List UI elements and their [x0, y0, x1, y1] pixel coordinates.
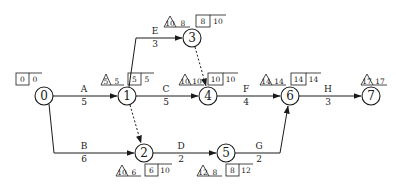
- svg-text:12: 12: [198, 168, 208, 177]
- node-7-triangle-annotation: 17 17: [361, 74, 387, 86]
- svg-text:3: 3: [188, 31, 196, 45]
- svg-text:5: 5: [222, 146, 230, 160]
- svg-text:10: 10: [160, 166, 170, 175]
- activity-F-name: F: [243, 84, 249, 94]
- node-0: 0: [35, 87, 53, 105]
- svg-text:14: 14: [294, 75, 304, 84]
- node-1: 1: [118, 87, 136, 105]
- svg-text:6: 6: [149, 166, 154, 175]
- node-6: 6: [281, 87, 299, 105]
- svg-text:0: 0: [20, 75, 25, 84]
- node-3-time-box: 8 10: [196, 15, 226, 27]
- svg-text:14: 14: [261, 77, 271, 86]
- svg-text:4: 4: [204, 89, 212, 103]
- svg-text:8: 8: [201, 17, 206, 26]
- activity-C-duration: 5: [163, 97, 169, 107]
- svg-text:5: 5: [115, 77, 120, 86]
- activity-H-duration: 3: [325, 97, 331, 107]
- svg-text:0: 0: [40, 89, 48, 103]
- node-6-time-box: 14 14: [291, 73, 321, 85]
- svg-text:10: 10: [226, 75, 236, 84]
- node-2-triangle-annotation: 10 6: [116, 165, 141, 177]
- node-7: 7: [362, 87, 380, 105]
- svg-text:10: 10: [165, 19, 175, 28]
- svg-text:10: 10: [211, 75, 221, 84]
- svg-text:0: 0: [33, 75, 38, 84]
- node-2: 2: [135, 144, 153, 162]
- activity-E-name: E: [152, 26, 159, 36]
- svg-text:12: 12: [241, 166, 251, 175]
- node-1-time-box: 5 5: [128, 73, 154, 85]
- svg-text:10: 10: [192, 77, 202, 86]
- svg-text:1: 1: [123, 89, 131, 103]
- activity-B-name: B: [81, 141, 88, 151]
- svg-text:5: 5: [104, 77, 109, 86]
- node-5-time-box: 8 12: [226, 164, 253, 176]
- node-1-triangle-annotation: 5 5: [101, 74, 124, 86]
- activity-G-duration: 2: [256, 154, 262, 164]
- activity-E-duration: 3: [152, 39, 158, 49]
- activity-G-name: G: [255, 141, 262, 151]
- svg-text:6: 6: [132, 168, 137, 177]
- node-2-time-box: 6 10: [145, 164, 172, 176]
- activity-A-name: A: [80, 84, 88, 94]
- network-diagram: A 5 B 6 C 5 D 2 E 3 F 4 G 2 H 3 0 1 2: [0, 0, 396, 191]
- svg-text:17: 17: [375, 77, 385, 86]
- svg-text:10: 10: [180, 77, 190, 86]
- activity-F-duration: 4: [243, 97, 249, 107]
- svg-text:10: 10: [213, 17, 223, 26]
- svg-text:14: 14: [274, 77, 284, 86]
- svg-text:8: 8: [230, 166, 235, 175]
- edge-B: [49, 104, 134, 153]
- activity-H-name: H: [324, 84, 332, 94]
- svg-text:8: 8: [213, 168, 218, 177]
- svg-text:7: 7: [367, 89, 375, 103]
- svg-text:10: 10: [117, 168, 127, 177]
- activity-C-name: C: [163, 84, 170, 94]
- svg-text:5: 5: [145, 75, 150, 84]
- svg-text:2: 2: [140, 146, 148, 160]
- node-4: 4: [199, 87, 217, 105]
- svg-text:17: 17: [362, 77, 372, 86]
- activity-B-duration: 6: [81, 154, 87, 164]
- activity-A-duration: 5: [81, 97, 87, 107]
- node-4-triangle-annotation: 10 10: [179, 74, 204, 86]
- svg-text:6: 6: [286, 89, 294, 103]
- svg-text:14: 14: [309, 75, 319, 84]
- node-3: 3: [183, 29, 201, 47]
- activity-D-duration: 2: [178, 154, 184, 164]
- node-5: 5: [217, 144, 235, 162]
- node-4-time-box: 10 10: [208, 73, 238, 85]
- node-6-triangle-annotation: 14 14: [260, 74, 286, 86]
- activity-D-name: D: [177, 141, 184, 151]
- svg-text:8: 8: [181, 19, 186, 28]
- svg-text:5: 5: [132, 75, 137, 84]
- node-3-triangle-annotation: 10 8: [164, 16, 190, 28]
- node-0-time-box: 0 0: [16, 73, 42, 85]
- node-5-triangle-annotation: 12 8: [197, 165, 222, 177]
- dummy-edge-1-2: [130, 105, 141, 143]
